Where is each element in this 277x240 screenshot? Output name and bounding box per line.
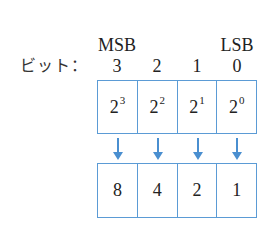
down-arrow-icon <box>157 138 159 154</box>
bit-position-3: 3 <box>97 57 137 75</box>
value-cell: 8 <box>98 164 138 217</box>
down-arrow-icon <box>117 138 119 154</box>
bit-position-2: 2 <box>137 57 177 75</box>
power-base: 2 <box>110 97 119 118</box>
value-cell: 1 <box>217 164 256 217</box>
value-row: 8 4 2 1 <box>97 163 257 218</box>
down-arrow-icon <box>236 138 238 154</box>
power-exponent: 1 <box>199 94 205 106</box>
power-exponent: 0 <box>239 94 245 106</box>
down-arrow-icon <box>197 138 199 154</box>
power-cell: 23 <box>98 81 138 133</box>
power-row: 23 22 21 20 <box>97 80 257 134</box>
value-cell: 4 <box>138 164 178 217</box>
bit-position-0: 0 <box>217 57 257 75</box>
power-base: 2 <box>149 97 158 118</box>
power-base: 2 <box>229 97 238 118</box>
power-cell: 22 <box>138 81 178 133</box>
bit-position-1: 1 <box>177 57 217 75</box>
power-cell: 21 <box>178 81 218 133</box>
power-base: 2 <box>189 97 198 118</box>
power-exponent: 2 <box>159 94 165 106</box>
msb-label: MSB <box>97 36 137 54</box>
power-exponent: 3 <box>120 94 126 106</box>
power-cell: 20 <box>217 81 256 133</box>
bit-label: ビット： <box>20 57 88 75</box>
lsb-label: LSB <box>217 36 257 54</box>
value-cell: 2 <box>178 164 218 217</box>
